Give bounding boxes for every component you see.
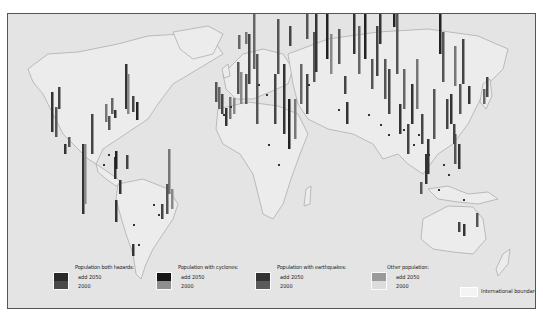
- population-bar: [483, 89, 486, 104]
- population-bar: [91, 114, 94, 154]
- population-bar: [240, 72, 243, 104]
- swatch-2000: [157, 281, 171, 289]
- settlement-dot: [413, 144, 415, 146]
- population-bar: [300, 64, 303, 104]
- legend-label-2050: add 2050: [181, 274, 204, 280]
- population-bar: [379, 14, 382, 44]
- population-bar: [338, 29, 341, 64]
- settlement-dot: [428, 154, 430, 156]
- population-bar: [245, 74, 248, 104]
- central-america-landmass: [96, 164, 123, 186]
- population-bar: [433, 89, 436, 139]
- population-bar: [256, 54, 259, 124]
- population-bar: [289, 26, 292, 46]
- population-bar: [446, 99, 449, 129]
- population-bar: [420, 182, 423, 194]
- population-bar: [442, 32, 445, 82]
- population-bar: [225, 108, 228, 126]
- legend-label-boundaries: International boundaries: [481, 288, 536, 294]
- population-bar: [439, 14, 442, 54]
- population-bar: [421, 114, 424, 144]
- settlement-dot: [403, 129, 405, 131]
- population-bar: [136, 102, 139, 120]
- settlement-dot: [463, 199, 465, 201]
- population-bar: [245, 32, 248, 44]
- population-bar: [215, 82, 218, 102]
- population-bar: [450, 94, 453, 124]
- legend-swatch: [371, 272, 387, 290]
- map-frame: Population both hazards: add 2050 2000 P…: [7, 13, 536, 309]
- new-zealand-landmass: [496, 249, 510, 276]
- settlement-dot: [388, 134, 390, 136]
- population-bar: [468, 86, 471, 104]
- swatch-2000: [54, 281, 68, 289]
- settlement-dot: [223, 114, 225, 116]
- settlement-dot: [266, 94, 268, 96]
- population-bar: [326, 14, 329, 59]
- settlement-dot: [308, 84, 310, 86]
- population-bar: [306, 74, 309, 114]
- population-bar: [274, 74, 277, 124]
- population-bar: [55, 107, 58, 137]
- legend-title: Other population:: [387, 264, 429, 270]
- population-bar: [84, 144, 87, 204]
- population-bar: [115, 200, 118, 222]
- population-bar: [119, 180, 122, 194]
- population-bar: [407, 124, 410, 154]
- swatch-2050: [157, 273, 171, 281]
- population-bar: [218, 87, 221, 109]
- legend-title: Population with earthquakes:: [277, 264, 346, 270]
- settlement-dot: [153, 204, 155, 206]
- legend-title: Population with cyclones:: [178, 264, 238, 270]
- population-bar: [330, 34, 333, 74]
- settlement-dot: [108, 154, 110, 156]
- population-bar: [132, 96, 135, 112]
- legend-label-2000: 2000: [280, 283, 293, 289]
- population-bar: [454, 46, 457, 86]
- settlement-dot: [368, 114, 370, 116]
- legend-label-2000: 2000: [181, 283, 194, 289]
- population-bar: [105, 104, 108, 122]
- population-bar: [315, 14, 318, 72]
- population-bar: [253, 14, 256, 69]
- population-bar: [463, 224, 466, 236]
- population-bar: [248, 34, 251, 84]
- population-bar: [384, 59, 387, 99]
- swatch-2000: [372, 281, 386, 289]
- legend-swatch: [156, 272, 172, 290]
- population-bar: [462, 39, 465, 84]
- population-bar: [371, 59, 374, 89]
- legend-label-2050: add 2050: [396, 274, 419, 280]
- population-bar: [233, 98, 236, 114]
- population-bar: [364, 14, 367, 59]
- settlement-dot: [278, 164, 280, 166]
- population-bar: [126, 155, 129, 169]
- population-bar: [388, 69, 391, 114]
- legend-swatch: [255, 272, 271, 290]
- settlement-dot: [268, 144, 270, 146]
- swatch-2000: [256, 281, 270, 289]
- population-bar: [476, 213, 479, 227]
- settlement-dot: [258, 84, 260, 86]
- population-bar: [132, 244, 135, 256]
- population-bar: [416, 59, 419, 109]
- legend-label-2000: 2000: [78, 283, 91, 289]
- population-bar: [171, 189, 174, 209]
- settlement-dot: [438, 189, 440, 191]
- population-bar: [458, 222, 461, 232]
- madagascar-landmass: [304, 186, 311, 206]
- population-bar: [237, 62, 240, 94]
- population-bar: [288, 99, 291, 149]
- population-bar: [399, 104, 402, 134]
- legend-label-2050: add 2050: [280, 274, 303, 280]
- continents: [28, 26, 510, 279]
- settlement-dot: [158, 214, 160, 216]
- population-bar: [453, 124, 456, 144]
- population-bar: [458, 144, 461, 169]
- population-bar: [64, 144, 67, 154]
- population-bar: [68, 137, 71, 147]
- population-bar: [108, 116, 111, 130]
- settlement-dot: [230, 106, 232, 108]
- population-bar: [115, 151, 118, 169]
- population-bar: [114, 110, 117, 118]
